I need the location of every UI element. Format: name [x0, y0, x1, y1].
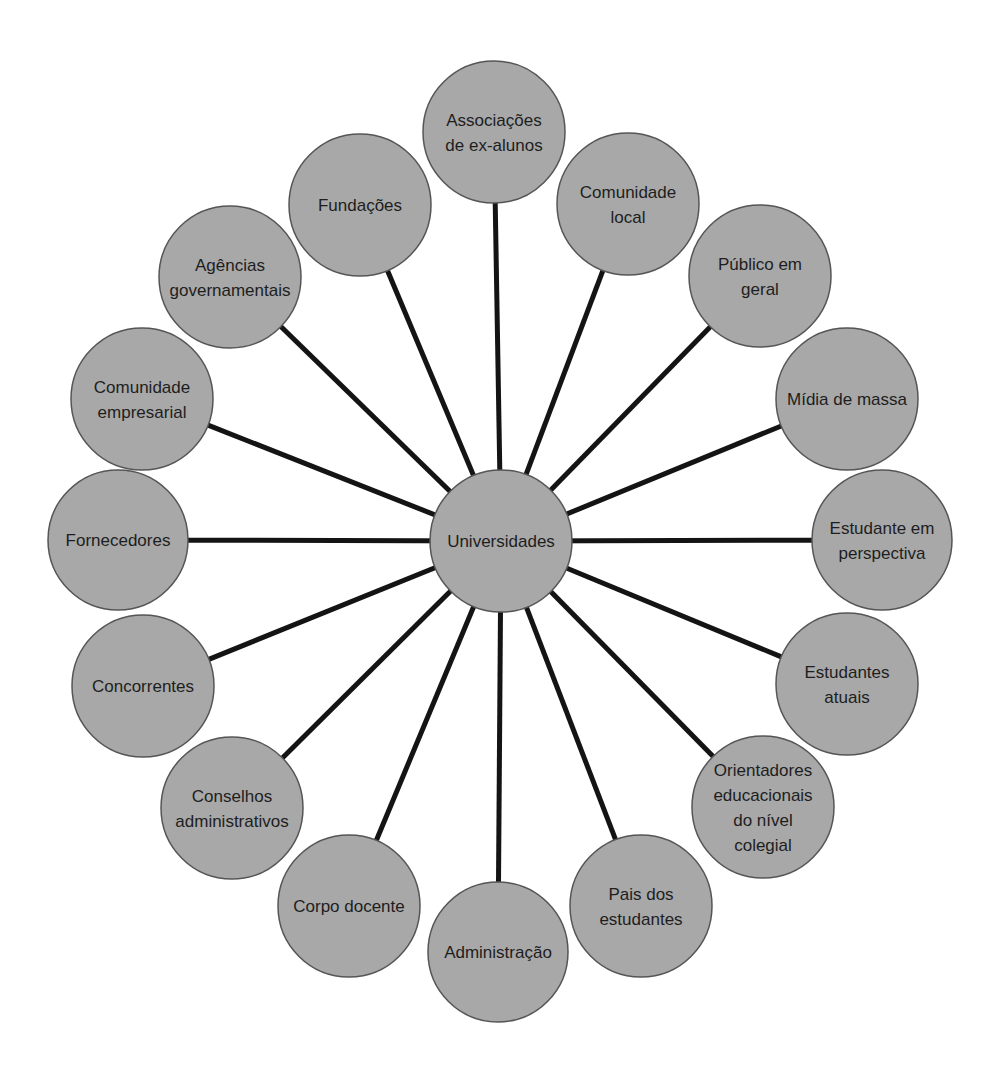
node-label: estudantes	[599, 910, 682, 929]
node-label: local	[611, 208, 646, 227]
node-label: geral	[741, 280, 779, 299]
node-label: Conselhos	[192, 787, 272, 806]
node-label: Agências	[195, 256, 265, 275]
node-label: administrativos	[175, 812, 288, 831]
node-label: Estudantes	[804, 663, 889, 682]
hub-node: Universidades	[430, 470, 572, 612]
node-associacoes-ex-alunos: Associaçõesde ex-alunos	[423, 61, 565, 203]
node-label: Associações	[446, 111, 541, 130]
node-label: Orientadores	[714, 761, 812, 780]
node-fornecedores: Fornecedores	[48, 470, 188, 610]
node-label: educacionais	[713, 786, 812, 805]
node-corpo-docente: Corpo docente	[278, 835, 420, 977]
node-circle	[557, 133, 699, 275]
node-comunidade-empresarial: Comunidadeempresarial	[71, 328, 213, 470]
node-circle	[423, 61, 565, 203]
stakeholder-diagram: Associaçõesde ex-alunosComunidadelocalPú…	[0, 0, 1000, 1082]
node-circle	[776, 613, 918, 755]
node-label: do nível	[733, 811, 793, 830]
node-label: colegial	[734, 836, 792, 855]
node-label: perspectiva	[839, 544, 926, 563]
node-label: Administração	[444, 943, 552, 962]
node-label: Fundações	[318, 196, 402, 215]
node-label: atuais	[824, 688, 869, 707]
node-circle	[812, 470, 952, 610]
node-label: Comunidade	[94, 378, 190, 397]
node-estudante-em-perspectiva: Estudante emperspectiva	[812, 470, 952, 610]
node-circle	[689, 205, 831, 347]
node-label: Universidades	[447, 532, 555, 551]
node-comunidade-local: Comunidadelocal	[557, 133, 699, 275]
node-label: de ex-alunos	[445, 136, 542, 155]
node-label: Comunidade	[580, 183, 676, 202]
node-circle	[692, 736, 834, 878]
node-conselhos-administrativos: Conselhosadministrativos	[161, 737, 303, 879]
node-circle	[71, 328, 213, 470]
node-concorrentes: Concorrentes	[72, 615, 214, 757]
node-midia-de-massa: Mídia de massa	[776, 328, 918, 470]
node-publico-em-geral: Público emgeral	[689, 205, 831, 347]
node-agencias-governamentais: Agênciasgovernamentais	[159, 206, 301, 348]
node-label: Mídia de massa	[787, 390, 908, 409]
node-label: Corpo docente	[293, 897, 405, 916]
node-circle	[159, 206, 301, 348]
node-administracao: Administração	[428, 882, 568, 1022]
node-label: Concorrentes	[92, 677, 194, 696]
node-label: Estudante em	[830, 519, 935, 538]
node-label: empresarial	[98, 403, 187, 422]
node-label: Pais dos	[608, 885, 673, 904]
node-circle	[570, 835, 712, 977]
node-orientadores-educacionais: Orientadoreseducacionaisdo nívelcolegial	[692, 736, 834, 878]
node-fundacoes: Fundações	[289, 134, 431, 276]
node-circle	[161, 737, 303, 879]
node-pais-dos-estudantes: Pais dosestudantes	[570, 835, 712, 977]
node-universidades: Universidades	[430, 470, 572, 612]
node-label: Público em	[718, 255, 802, 274]
node-label: Fornecedores	[66, 531, 171, 550]
node-estudantes-atuais: Estudantesatuais	[776, 613, 918, 755]
node-label: governamentais	[170, 281, 291, 300]
